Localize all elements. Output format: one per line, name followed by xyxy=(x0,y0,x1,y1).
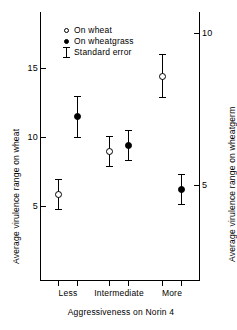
y-axis-left xyxy=(40,12,41,281)
y-tick-right-10 xyxy=(194,33,199,34)
x-tick-3 xyxy=(109,281,110,286)
error-bar-cap-top xyxy=(178,174,185,175)
error-bar-cap-bottom xyxy=(159,97,166,98)
x-ticklabel-intermediate: Intermediate xyxy=(88,289,150,298)
legend-label-on-wheat: On wheat xyxy=(74,26,112,35)
data-point-on-wheatgrass xyxy=(178,186,185,193)
y-axis-title-left: Average virulence range on wheat xyxy=(12,129,21,264)
y-tick-left-10 xyxy=(41,137,46,138)
legend-error-bar-cap-bottom xyxy=(63,57,70,58)
legend-marker-open-circle xyxy=(64,28,69,33)
x-tick-5 xyxy=(162,281,163,286)
data-point-on-wheat xyxy=(55,191,62,198)
error-bar-cap-bottom xyxy=(125,160,132,161)
x-tick-4 xyxy=(128,281,129,286)
error-bar-cap-top xyxy=(55,179,62,180)
y-ticklabel-left-5: 5 xyxy=(18,202,38,211)
data-point-on-wheat xyxy=(159,73,166,80)
error-bar-cap-top xyxy=(125,130,132,131)
y-tick-left-15 xyxy=(41,68,46,69)
error-bar-cap-bottom xyxy=(55,209,62,210)
error-bar-cap-bottom xyxy=(106,166,113,167)
legend-error-bar-cap-top xyxy=(63,47,70,48)
x-ticklabel-less: Less xyxy=(48,289,88,298)
y-ticklabel-left-10: 10 xyxy=(18,133,38,142)
x-tick-6 xyxy=(181,281,182,286)
y-axis-title-right: Average virulence range on wheatgerm xyxy=(228,107,237,262)
figure-canvas: 15 10 5 10 5 Less Intermediate More Aggr… xyxy=(0,0,237,330)
x-axis-bottom xyxy=(40,280,200,281)
error-bar-cap-top xyxy=(159,54,166,55)
x-ticklabel-more: More xyxy=(152,289,192,298)
data-point-on-wheatgrass xyxy=(74,113,81,120)
x-tick-2 xyxy=(77,281,78,286)
legend-marker-filled-circle xyxy=(64,39,69,44)
y-ticklabel-right-5: 5 xyxy=(202,181,222,190)
data-point-on-wheat xyxy=(106,148,113,155)
y-tick-right-5 xyxy=(194,185,199,186)
error-bar-cap-bottom xyxy=(178,204,185,205)
y-ticklabel-left-15: 15 xyxy=(18,64,38,73)
y-tick-left-5 xyxy=(41,206,46,207)
x-axis-title: Aggressiveness on Norin 4 xyxy=(46,308,196,317)
error-bar-cap-top xyxy=(74,96,81,97)
y-ticklabel-right-10: 10 xyxy=(202,29,222,38)
x-tick-1 xyxy=(58,281,59,286)
error-bar-cap-bottom xyxy=(74,137,81,138)
legend-label-standard-error: Standard error xyxy=(74,48,132,57)
error-bar-cap-top xyxy=(106,136,113,137)
y-axis-right xyxy=(199,12,200,281)
legend-label-on-wheatgrass: On wheatgrass xyxy=(74,37,134,46)
data-point-on-wheatgrass xyxy=(125,142,132,149)
